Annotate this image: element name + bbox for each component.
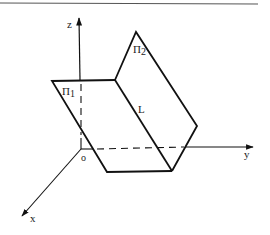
y-axis-label: y: [244, 148, 250, 160]
x-axis-label: x: [30, 212, 36, 224]
plane-pi2-label: Π2: [133, 43, 146, 57]
top-rule: [0, 3, 258, 4]
z-axis-label: z: [67, 18, 72, 30]
line-L-label: L: [138, 103, 145, 115]
intersection-line-L: [115, 80, 172, 171]
y-axis-hidden: [97, 147, 184, 149]
plane-pi2: [115, 32, 197, 171]
x-axis: [22, 149, 81, 216]
z-axis-solid: [79, 18, 80, 80]
origin-label: o: [81, 152, 86, 163]
plane-pi1-label: Π1: [62, 85, 75, 99]
diagram-canvas: z y x o Π1 Π2 L: [0, 0, 270, 235]
